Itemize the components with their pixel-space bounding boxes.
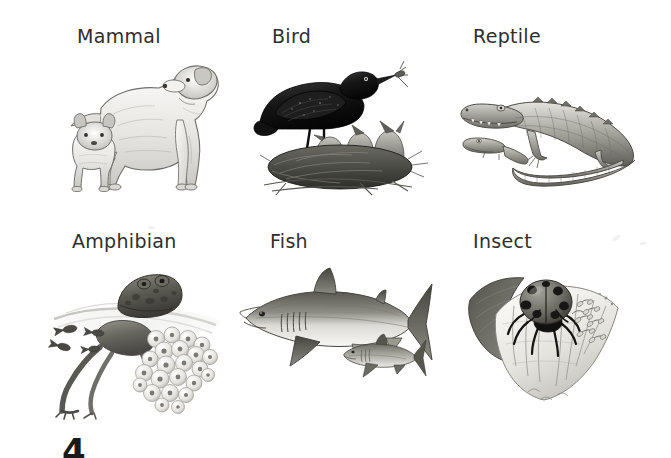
- worksheet-page: Mammal: [0, 0, 671, 458]
- label-fish: Fish: [270, 232, 308, 251]
- dog-with-puppy-illustration: [55, 48, 230, 196]
- paper-speck: [148, 226, 155, 229]
- ladybird-on-leaf-illustration: [466, 262, 626, 412]
- crocodile-with-hatchling-illustration: [455, 82, 655, 194]
- paper-speck: [612, 234, 622, 242]
- label-bird: Bird: [272, 27, 311, 46]
- label-insect: Insect: [473, 232, 532, 251]
- paper-speck: [640, 242, 646, 245]
- page-number-cropped: 4: [62, 434, 86, 458]
- shark-with-young-illustration: [236, 266, 436, 378]
- frog-with-spawn-illustration: [52, 255, 232, 420]
- label-amphibian: Amphibian: [72, 232, 177, 251]
- label-mammal: Mammal: [77, 27, 161, 46]
- blackbird-nest-illustration: [252, 45, 432, 197]
- label-reptile: Reptile: [473, 27, 541, 46]
